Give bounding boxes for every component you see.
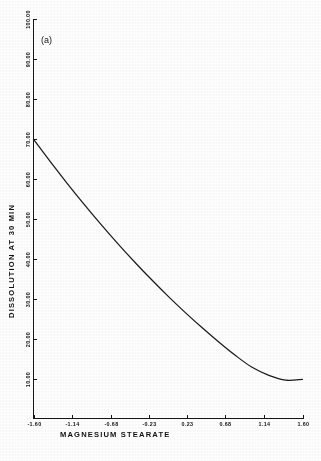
y-tick-label: 80.00 — [25, 92, 31, 107]
x-tick-label: -0.23 — [142, 421, 156, 427]
x-tick-label: 0.23 — [182, 421, 194, 427]
y-tick-label: 20.00 — [25, 332, 31, 347]
x-tick-label: 1.60 — [298, 421, 310, 427]
dissolution-curve — [34, 139, 303, 380]
y-axis-tick-labels: 10.0020.0030.0040.0050.0060.0070.0080.00… — [25, 10, 31, 387]
y-tick-label: 100.00 — [25, 10, 31, 29]
x-axis-title: MAGNESIUM STEARATE — [60, 430, 170, 439]
y-tick-label: 30.00 — [25, 292, 31, 307]
x-tick-label: -0.68 — [104, 421, 118, 427]
chart-canvas: 10.0020.0030.0040.0050.0060.0070.0080.00… — [0, 0, 321, 461]
y-tick-label: 40.00 — [25, 252, 31, 267]
y-tick-label: 50.00 — [25, 212, 31, 227]
y-tick-label: 90.00 — [25, 52, 31, 67]
y-axis-title: DISSOLUTION AT 30 MIN — [7, 204, 16, 318]
x-tick-label: -1.60 — [27, 421, 41, 427]
x-tick-label: 0.68 — [220, 421, 232, 427]
panel-label: (a) — [41, 35, 52, 45]
y-tick-label: 70.00 — [25, 132, 31, 147]
figure-panel: 10.0020.0030.0040.0050.0060.0070.0080.00… — [0, 0, 321, 461]
x-tick-label: -1.14 — [65, 421, 79, 427]
x-tick-label: 1.14 — [259, 421, 271, 427]
y-tick-label: 10.00 — [25, 372, 31, 387]
x-axis-tick-labels: -1.60-1.14-0.68-0.230.230.681.141.60 — [27, 421, 309, 427]
y-tick-label: 60.00 — [25, 172, 31, 187]
